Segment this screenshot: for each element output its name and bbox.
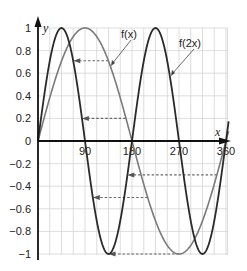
y-tick-label: −1	[18, 248, 31, 260]
y-tick-label: −0.4	[9, 180, 31, 192]
fx-label: f(x)	[121, 28, 137, 40]
dashed-arrows	[73, 58, 217, 256]
y-tick-label: 1	[25, 22, 31, 34]
y-tick-label: 0	[25, 135, 31, 147]
x-axis-label: x	[214, 125, 221, 139]
y-axis-label: y	[42, 21, 49, 35]
y-tick-labels: 10.80.60.40.20−0.2−0.4−0.6−0.8−1	[9, 22, 31, 260]
y-axis-arrow-icon	[35, 16, 42, 27]
chart-canvas: 10.80.60.40.20−0.2−0.4−0.6−0.8−1 9018027…	[0, 0, 247, 271]
y-tick-label: 0.2	[16, 112, 31, 124]
y-tick-label: 0.4	[16, 90, 31, 102]
y-tick-label: 0.6	[16, 67, 31, 79]
y-tick-label: −0.6	[9, 203, 31, 215]
y-tick-label: −0.8	[9, 225, 31, 237]
y-tick-label: 0.8	[16, 45, 31, 57]
x-tick-labels: 90180270360	[79, 145, 235, 157]
f2x-label: f(2x)	[179, 37, 201, 49]
sine-graph: 10.80.60.40.20−0.2−0.4−0.6−0.8−1 9018027…	[0, 0, 247, 271]
y-tick-label: −0.2	[9, 158, 31, 170]
